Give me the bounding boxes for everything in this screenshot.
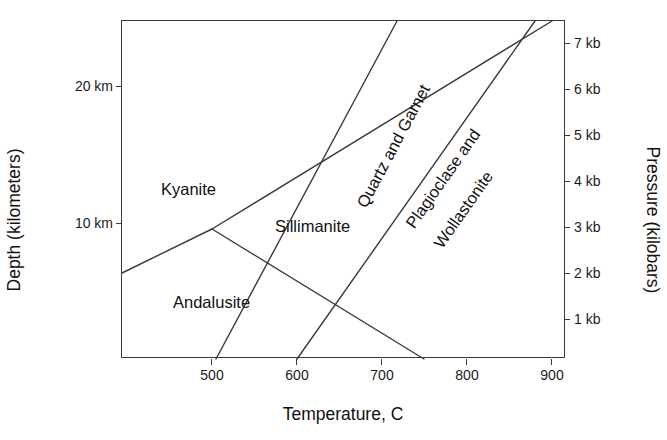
figure-canvas: Depth (kilometers) Pressure (kilobars) T…: [0, 0, 667, 440]
x-tick-500: [211, 359, 212, 365]
y-left-tick-10km: [116, 223, 122, 224]
region-label-andalusite: Andalusite: [173, 293, 250, 312]
x-axis-title-text: Temperature, C: [283, 404, 404, 425]
line-kyanite-sillimanite-boundary: [212, 21, 552, 229]
region-label-sillimanite: Sillimanite: [275, 217, 350, 236]
y-right-tick-label-2kb: 2 kb: [574, 265, 600, 281]
y-right-tick-label-7kb: 7 kb: [574, 35, 600, 51]
y-right-tick-label-5kb: 5 kb: [574, 127, 600, 143]
y-axis-left-title: Depth (kilometers): [0, 0, 28, 440]
y-axis-right-title-text: Pressure (kilobars): [643, 147, 664, 294]
x-tick-label-600: 600: [285, 367, 308, 383]
y-left-tick-label-10km: 10 km: [65, 215, 113, 231]
region-label-kyanite: Kyanite: [161, 180, 216, 199]
x-tick-700: [381, 359, 382, 365]
x-tick-label-700: 700: [370, 367, 393, 383]
y-right-tick-label-4kb: 4 kb: [574, 173, 600, 189]
y-right-tick-1kb: [564, 319, 570, 320]
y-left-tick-label-20km: 20 km: [65, 78, 113, 94]
x-tick-800: [466, 359, 467, 365]
line-plagioclase-wollastonite: [297, 21, 535, 359]
x-axis-title: Temperature, C: [121, 402, 565, 426]
y-right-tick-label-6kb: 6 kb: [574, 81, 600, 97]
y-left-tick-20km: [116, 86, 122, 87]
y-axis-right-title: Pressure (kilobars): [639, 0, 667, 440]
x-tick-900: [551, 359, 552, 365]
y-axis-left-title-text: Depth (kilometers): [4, 149, 25, 292]
y-right-tick-5kb: [564, 135, 570, 136]
x-tick-label-800: 800: [455, 367, 478, 383]
y-right-tick-label-1kb: 1 kb: [574, 311, 600, 327]
line-kyanite-andalusite-boundary: [122, 229, 212, 273]
y-right-tick-2kb: [564, 273, 570, 274]
x-tick-label-900: 900: [540, 367, 563, 383]
plot-area: 500 600 700 800 900 10 km 20 km 1 kb 2 k…: [121, 20, 565, 358]
y-right-tick-6kb: [564, 89, 570, 90]
y-right-tick-7kb: [564, 43, 570, 44]
x-tick-600: [296, 359, 297, 365]
y-right-tick-label-3kb: 3 kb: [574, 219, 600, 235]
x-tick-label-500: 500: [200, 367, 223, 383]
y-right-tick-3kb: [564, 227, 570, 228]
y-right-tick-4kb: [564, 181, 570, 182]
